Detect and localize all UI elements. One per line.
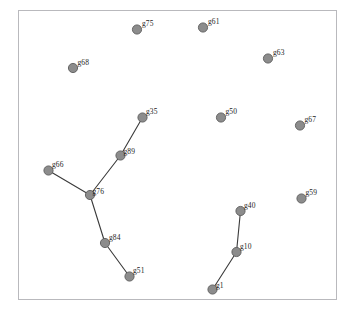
node-label-g84: g84 bbox=[109, 234, 121, 242]
node-label-g35: g35 bbox=[146, 108, 158, 116]
node-label-g66: g66 bbox=[52, 161, 64, 169]
node-label-g61: g61 bbox=[208, 18, 220, 26]
node-label-g76: g76 bbox=[93, 188, 105, 196]
node-label-g50: g50 bbox=[226, 108, 238, 116]
graph-node-g75[interactable] bbox=[132, 25, 141, 34]
graph-canvas bbox=[0, 0, 355, 316]
graph-node-g63[interactable] bbox=[263, 54, 272, 63]
graph-edge bbox=[49, 171, 91, 196]
node-label-g10: g10 bbox=[240, 243, 252, 251]
node-label-g1: g1 bbox=[216, 282, 224, 290]
edge-layer bbox=[49, 118, 241, 290]
graph-node-g68[interactable] bbox=[68, 63, 77, 72]
graph-node-g50[interactable] bbox=[216, 113, 225, 122]
node-label-g63: g63 bbox=[273, 49, 285, 57]
node-label-g68: g68 bbox=[78, 59, 90, 67]
graph-node-g61[interactable] bbox=[198, 23, 207, 32]
node-label-g67: g67 bbox=[305, 116, 317, 124]
node-label-g40: g40 bbox=[244, 202, 256, 210]
network-graph-figure: g75g61g68g63g35g50g67g89g66g76g59g40g84g… bbox=[0, 0, 355, 316]
graph-node-g67[interactable] bbox=[295, 121, 304, 130]
node-label-g89: g89 bbox=[124, 148, 136, 156]
graph-edge bbox=[90, 195, 105, 243]
graph-edge bbox=[105, 243, 130, 277]
node-label-g75: g75 bbox=[142, 20, 154, 28]
node-label-g51: g51 bbox=[133, 267, 145, 275]
node-label-g59: g59 bbox=[306, 189, 318, 197]
